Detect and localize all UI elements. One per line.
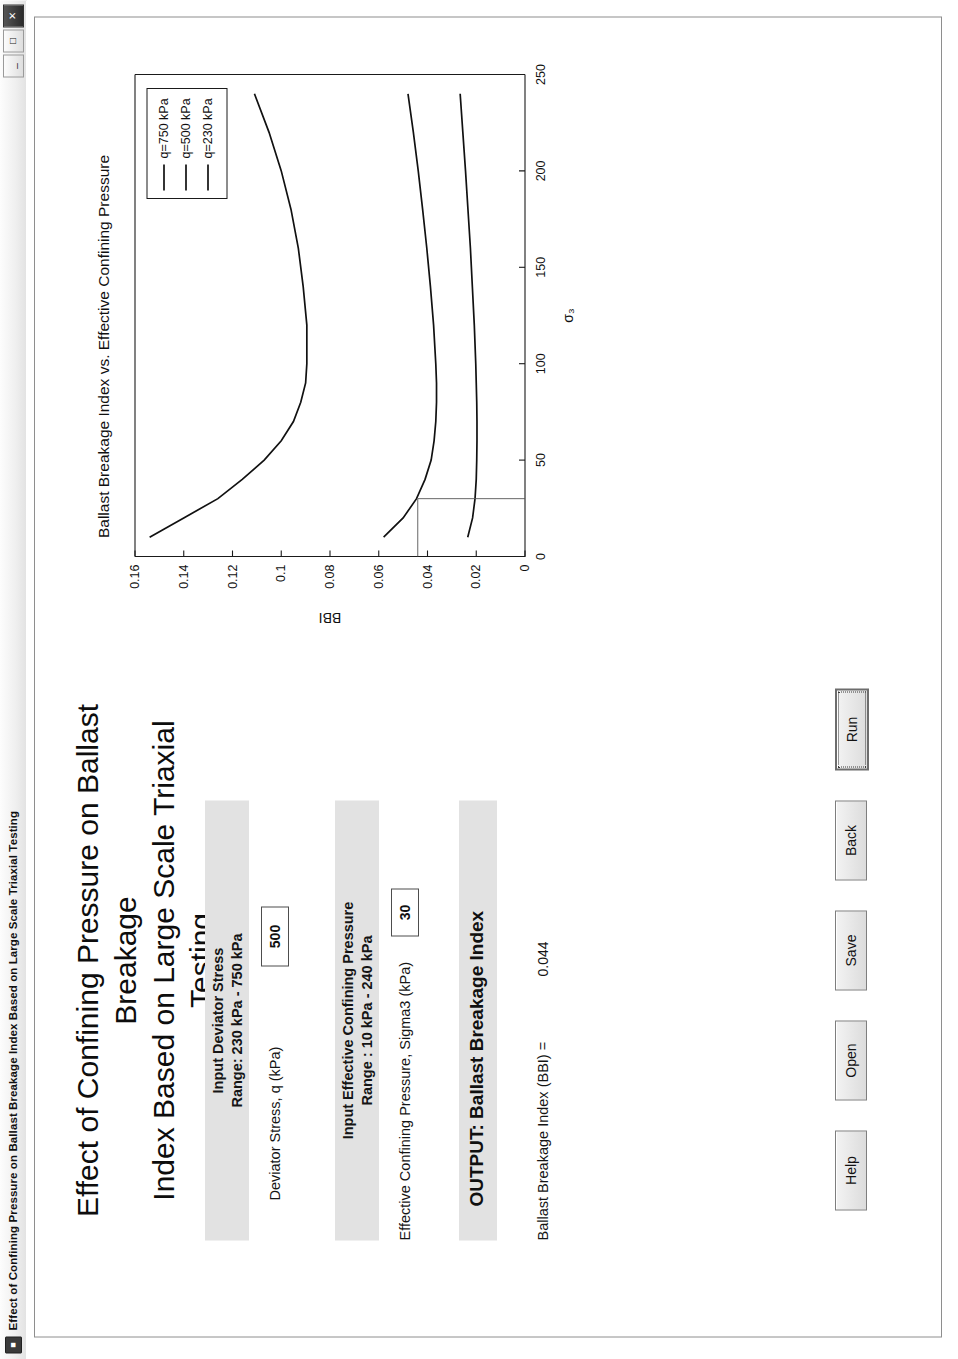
svg-text:0.04: 0.04 [421, 564, 435, 588]
svg-text:50: 50 [534, 453, 548, 467]
window-title: Effect of Confining Pressure on Ballast … [7, 810, 19, 1330]
back-button[interactable]: Back [835, 800, 867, 880]
window-body: Effect of Confining Pressure on Ballast … [26, 0, 958, 1359]
minimize-button[interactable]: _ [3, 54, 24, 77]
panel-deviator-stress-title: Input Deviator Stress Range: 230 kPa - 7… [209, 800, 247, 1240]
svg-text:0: 0 [534, 552, 548, 559]
svg-text:250: 250 [534, 64, 548, 85]
svg-text:q=750 kPa: q=750 kPa [157, 98, 171, 158]
svg-text:q=500 kPa: q=500 kPa [179, 98, 193, 158]
page-title: Effect of Confining Pressure on Ballast … [69, 680, 220, 1240]
output-bbi-label: Ballast Breakage Index (BBI) = [535, 1041, 551, 1240]
window-titlebar: ■ Effect of Confining Pressure on Ballas… [0, 0, 27, 1359]
panel-deviator-title-line2: Range: 230 kPa - 750 kPa [228, 800, 247, 1240]
panel-deviator-title-line1: Input Deviator Stress [209, 800, 228, 1240]
matlab-figure-icon: ■ [5, 1336, 22, 1353]
svg-text:200: 200 [534, 160, 548, 181]
maximize-button[interactable]: □ [3, 29, 24, 52]
screenshot-root: ■ Effect of Confining Pressure on Ballas… [0, 0, 958, 1359]
run-button[interactable]: Run [835, 688, 869, 770]
gui-frame: Effect of Confining Pressure on Ballast … [34, 16, 942, 1337]
svg-text:100: 100 [534, 353, 548, 374]
svg-text:0.16: 0.16 [128, 564, 142, 588]
window-controls: _ □ ✕ [3, 0, 24, 79]
panel-confining-title-line1: Input Effective Confining Pressure [339, 800, 358, 1240]
confining-pressure-input[interactable]: 30 [391, 888, 419, 936]
chart-title: Ballast Breakage Index vs. Effective Con… [95, 46, 113, 646]
save-button[interactable]: Save [835, 910, 867, 990]
confining-pressure-label: Effective Confining Pressure, Sigma3 (kP… [397, 961, 413, 1240]
chart-panel: Ballast Breakage Index vs. Effective Con… [95, 46, 655, 646]
close-button[interactable]: ✕ [3, 4, 24, 27]
application-window: ■ Effect of Confining Pressure on Ballas… [0, 0, 958, 1359]
svg-text:BBI: BBI [319, 609, 342, 625]
page-title-line1: Effect of Confining Pressure on Ballast … [69, 680, 145, 1240]
svg-text:0.14: 0.14 [177, 564, 191, 588]
button-row: Help Open Save Back Run [835, 688, 869, 1210]
svg-text:σ₃: σ₃ [560, 308, 576, 322]
svg-text:q=230 kPa: q=230 kPa [201, 98, 215, 158]
output-bbi-value: 0.044 [535, 941, 551, 976]
svg-text:0: 0 [518, 564, 532, 571]
help-button[interactable]: Help [835, 1130, 867, 1210]
open-button[interactable]: Open [835, 1020, 867, 1100]
svg-text:0.08: 0.08 [323, 564, 337, 588]
svg-text:150: 150 [534, 256, 548, 277]
svg-text:0.12: 0.12 [226, 564, 240, 588]
panel-confining-title-line2: Range : 10 kPa - 240 kPa [358, 800, 377, 1240]
output-title: OUTPUT: Ballast Breakage Index [466, 910, 488, 1206]
deviator-stress-input[interactable]: 500 [261, 906, 289, 966]
bbi-vs-confining-pressure-chart: 05010015020025000.020.040.060.080.10.120… [95, 46, 635, 646]
panel-confining-pressure-title: Input Effective Confining Pressure Range… [339, 800, 377, 1240]
deviator-stress-label: Deviator Stress, q (kPa) [267, 1046, 283, 1200]
svg-text:0.06: 0.06 [372, 564, 386, 588]
svg-text:0.1: 0.1 [274, 564, 288, 581]
svg-text:0.02: 0.02 [469, 564, 483, 588]
